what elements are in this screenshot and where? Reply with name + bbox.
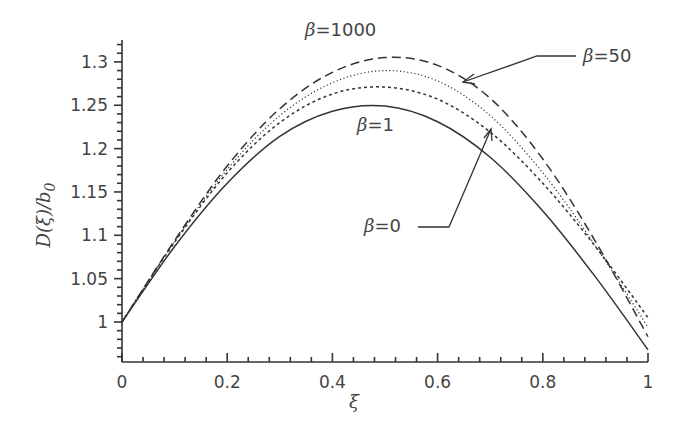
curve-1000 bbox=[122, 57, 648, 336]
chart: 00.20.40.60.8111.051.11.151.21.251.3 ξ D… bbox=[0, 0, 681, 433]
y-tick-label: 1.05 bbox=[70, 269, 108, 289]
axes bbox=[114, 40, 648, 362]
y-tick-label: 1.15 bbox=[70, 182, 108, 202]
y-tick-label: 1 bbox=[97, 312, 108, 332]
x-axis-label: ξ bbox=[349, 391, 360, 412]
annotation-beta-0: β=0 bbox=[363, 215, 401, 236]
svg-text:D(ξ)/b0: D(ξ)/b0 bbox=[33, 182, 58, 248]
y-tick-label: 1.25 bbox=[70, 95, 108, 115]
x-tick-label: 1 bbox=[643, 372, 654, 392]
x-tick-label: 0.8 bbox=[529, 372, 556, 392]
y-tick-label: 1.2 bbox=[81, 139, 108, 159]
annotation-beta-1: β=1 bbox=[356, 114, 394, 135]
annotation-beta-1000: β=1000 bbox=[304, 19, 376, 40]
annotation-beta-50: β=50 bbox=[582, 45, 631, 66]
curve-50 bbox=[122, 71, 648, 328]
x-tick-label: 0.6 bbox=[424, 372, 451, 392]
arrow-beta-50 bbox=[463, 56, 576, 84]
curves bbox=[122, 57, 648, 349]
x-tick-label: 0.4 bbox=[319, 372, 346, 392]
y-axis-label: D(ξ)/b0 bbox=[33, 182, 58, 248]
tick-labels: 00.20.40.60.8111.051.11.151.21.251.3 bbox=[70, 52, 653, 392]
arrow-beta-0 bbox=[418, 129, 492, 227]
y-tick-label: 1.3 bbox=[81, 52, 108, 72]
x-tick-label: 0 bbox=[117, 372, 128, 392]
y-tick-label: 1.1 bbox=[81, 225, 108, 245]
x-tick-label: 0.2 bbox=[214, 372, 241, 392]
